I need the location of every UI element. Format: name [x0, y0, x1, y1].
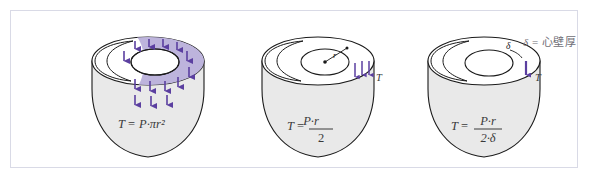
panel-3-formula-equals: = [461, 119, 468, 133]
panel-2-drawing: r T T = P·r 2 [243, 27, 393, 167]
thickness-label: δ [506, 41, 511, 51]
panel-2-formula-lhs: T [287, 119, 295, 133]
panel-1-formula-lhs: T [118, 117, 126, 131]
panel-2-wall-tension: r T T = P·r 2 [243, 27, 393, 167]
legend-definition: 心壁厚 [542, 36, 577, 48]
figure-page: T = P·πr² [0, 0, 590, 187]
panel-1-formula-equals: = [128, 117, 135, 131]
tension-label: T [376, 72, 383, 83]
panel-3-formula-denominator: 2·δ [480, 131, 495, 145]
panel-1-drawing: T = P·πr² [73, 27, 223, 167]
panel-3-formula-lhs: T [451, 119, 459, 133]
radius-label: r [333, 50, 337, 60]
panel-1-formula-rhs: P·πr² [138, 117, 165, 131]
panel-2-formula-denominator: 2 [318, 131, 324, 145]
ventricle-cavity-outline [465, 50, 513, 76]
legend-equals: = [532, 36, 539, 48]
legend-symbol: δ [523, 36, 529, 48]
panel-1-total-force: T = P·πr² [73, 27, 223, 167]
panel-2-formula-numerator: P·r [302, 114, 319, 128]
tension-label: T [535, 72, 542, 83]
panel-3-formula-numerator: P·r [479, 114, 496, 128]
figure-frame: T = P·πr² [10, 10, 578, 168]
legend-note: δ = 心壁厚 [523, 33, 576, 49]
